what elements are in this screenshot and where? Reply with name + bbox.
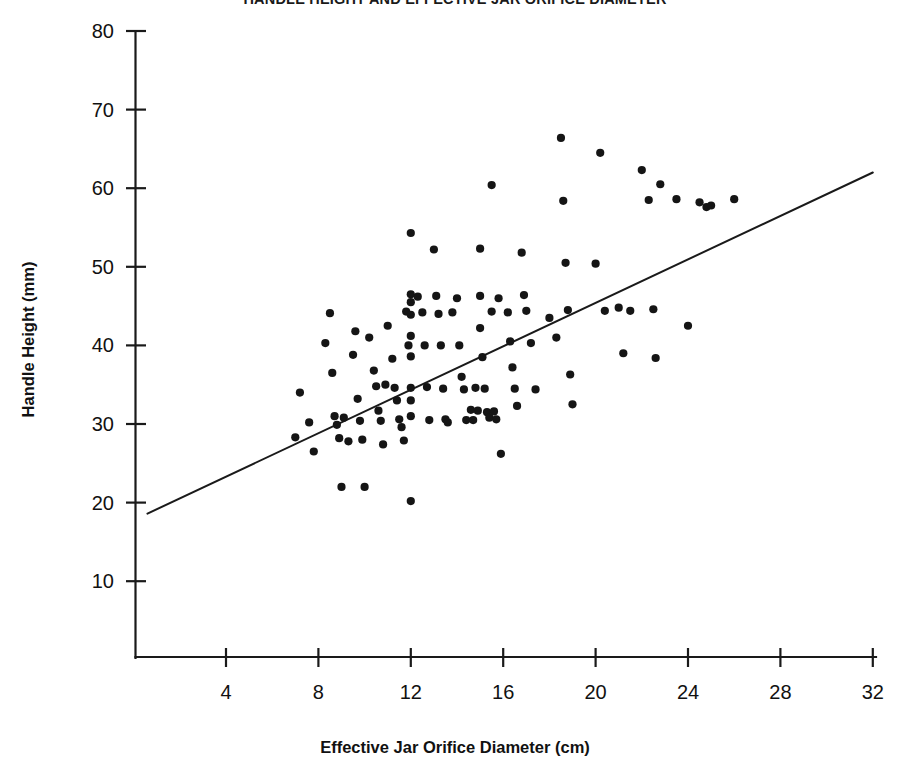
data-point bbox=[455, 341, 463, 349]
data-point bbox=[492, 415, 500, 423]
data-point bbox=[330, 412, 338, 420]
data-point bbox=[559, 197, 567, 205]
data-point bbox=[566, 370, 574, 378]
data-point bbox=[321, 339, 329, 347]
x-tick-label: 20 bbox=[584, 681, 606, 703]
data-point bbox=[407, 298, 415, 306]
data-point bbox=[626, 307, 634, 315]
x-tick-label: 32 bbox=[862, 681, 884, 703]
data-point bbox=[374, 407, 382, 415]
data-point bbox=[494, 294, 502, 302]
y-tick-label: 70 bbox=[92, 99, 114, 121]
data-point bbox=[434, 310, 442, 318]
data-point bbox=[522, 307, 530, 315]
data-point bbox=[365, 333, 373, 341]
data-point bbox=[407, 229, 415, 237]
data-point bbox=[310, 447, 318, 455]
data-point bbox=[400, 436, 408, 444]
data-point bbox=[545, 314, 553, 322]
data-point bbox=[730, 195, 738, 203]
data-point bbox=[351, 327, 359, 335]
data-point bbox=[296, 388, 304, 396]
data-point bbox=[469, 416, 477, 424]
data-point bbox=[513, 402, 521, 410]
data-point bbox=[506, 337, 514, 345]
data-point bbox=[474, 407, 482, 415]
data-point bbox=[488, 308, 496, 316]
data-point bbox=[527, 339, 535, 347]
data-point bbox=[340, 414, 348, 422]
x-tick-label: 8 bbox=[313, 681, 324, 703]
data-point bbox=[564, 306, 572, 314]
data-point bbox=[407, 311, 415, 319]
data-point bbox=[448, 308, 456, 316]
data-point bbox=[557, 134, 565, 142]
data-point bbox=[497, 450, 505, 458]
data-point bbox=[615, 304, 623, 312]
data-point bbox=[337, 483, 345, 491]
data-point bbox=[649, 305, 657, 313]
data-point bbox=[460, 385, 468, 393]
data-point bbox=[488, 181, 496, 189]
data-point bbox=[349, 351, 357, 359]
data-point bbox=[511, 385, 519, 393]
data-point bbox=[518, 249, 526, 257]
data-point bbox=[568, 400, 576, 408]
chart-figure: HANDLE HEIGHT AND EFFECTIVE JAR ORIFICE … bbox=[0, 0, 910, 781]
data-point bbox=[388, 355, 396, 363]
data-point bbox=[695, 198, 703, 206]
data-point bbox=[358, 436, 366, 444]
data-point bbox=[652, 354, 660, 362]
data-point bbox=[407, 396, 415, 404]
data-point bbox=[432, 292, 440, 300]
data-point bbox=[404, 341, 412, 349]
y-tick-label: 50 bbox=[92, 256, 114, 278]
x-tick-label: 4 bbox=[220, 681, 231, 703]
data-point bbox=[476, 292, 484, 300]
data-point bbox=[393, 396, 401, 404]
data-point bbox=[437, 341, 445, 349]
data-point bbox=[344, 437, 352, 445]
data-point bbox=[333, 421, 341, 429]
data-point bbox=[476, 324, 484, 332]
data-point bbox=[414, 293, 422, 301]
data-point bbox=[407, 384, 415, 392]
data-point bbox=[453, 294, 461, 302]
data-point bbox=[478, 353, 486, 361]
data-point bbox=[305, 418, 313, 426]
y-tick-label: 80 bbox=[92, 20, 114, 42]
data-point bbox=[601, 307, 609, 315]
data-point bbox=[377, 417, 385, 425]
y-tick-label: 60 bbox=[92, 177, 114, 199]
data-point bbox=[407, 412, 415, 420]
data-point bbox=[561, 259, 569, 267]
data-point bbox=[328, 369, 336, 377]
x-tick-label: 28 bbox=[769, 681, 791, 703]
data-point bbox=[384, 322, 392, 330]
data-point bbox=[596, 149, 604, 157]
data-point bbox=[520, 291, 528, 299]
x-tick-label: 16 bbox=[492, 681, 514, 703]
data-point bbox=[476, 245, 484, 253]
data-point bbox=[490, 407, 498, 415]
data-point bbox=[370, 366, 378, 374]
data-point bbox=[407, 332, 415, 340]
data-point bbox=[467, 406, 475, 414]
data-point bbox=[531, 385, 539, 393]
x-tick-label: 12 bbox=[400, 681, 422, 703]
data-point bbox=[430, 245, 438, 253]
y-axis-ticks: 1020304050607080 bbox=[92, 20, 146, 592]
y-tick-label: 20 bbox=[92, 492, 114, 514]
data-point bbox=[684, 322, 692, 330]
data-point bbox=[458, 373, 466, 381]
data-point bbox=[444, 418, 452, 426]
data-point bbox=[326, 309, 334, 317]
data-point bbox=[645, 196, 653, 204]
data-point bbox=[425, 416, 433, 424]
data-point bbox=[397, 423, 405, 431]
data-point bbox=[672, 195, 680, 203]
data-point bbox=[418, 308, 426, 316]
data-point bbox=[391, 384, 399, 392]
scatter-plot-canvas: 1020304050607080 48121620242832 bbox=[0, 0, 910, 781]
data-point bbox=[423, 383, 431, 391]
